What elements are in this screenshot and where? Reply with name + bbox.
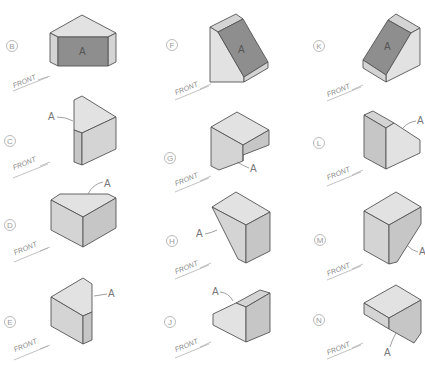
svg-text:K: K: [316, 42, 322, 51]
svg-text:FRONT: FRONT: [326, 340, 352, 356]
figure-H: H A FRONT: [167, 192, 271, 279]
leader-J: A: [212, 286, 233, 301]
surface-A-L: [386, 123, 420, 169]
svg-text:FRONT: FRONT: [326, 82, 352, 98]
front-indicator-H: FRONT: [174, 259, 211, 279]
front-indicator-F: FRONT: [174, 80, 211, 100]
figure-C: C A FRONT: [5, 96, 117, 178]
svg-text:J: J: [168, 318, 172, 327]
svg-text:H: H: [169, 237, 175, 246]
front-indicator-J: FRONT: [174, 337, 211, 358]
svg-text:A: A: [384, 347, 391, 358]
block-J: [213, 290, 270, 342]
figure-N: N A FRONT: [314, 285, 422, 359]
block-N: [364, 285, 421, 343]
svg-text:G: G: [167, 154, 173, 163]
figure-F: F A FRONT: [167, 14, 269, 100]
svg-text:C: C: [7, 137, 13, 146]
leader-G: A: [237, 162, 257, 174]
badge-J: J: [165, 317, 176, 328]
badge-G: G: [165, 153, 176, 164]
figure-J: J A FRONT: [165, 286, 271, 358]
svg-text:A: A: [48, 111, 55, 122]
block-M: [364, 192, 421, 264]
figure-L: L A FRONT: [314, 111, 425, 186]
svg-text:A: A: [104, 178, 111, 189]
svg-text:A: A: [108, 288, 115, 299]
svg-text:A: A: [196, 228, 203, 239]
badge-F: F: [167, 40, 178, 51]
leader-D: A: [88, 178, 111, 194]
leader-E: A: [94, 288, 115, 299]
svg-text:A: A: [384, 41, 391, 52]
badge-B: B: [7, 41, 18, 52]
svg-text:FRONT: FRONT: [174, 337, 200, 353]
leader-H: A: [196, 228, 217, 239]
block-D: [51, 194, 116, 247]
front-indicator-M: FRONT: [326, 261, 363, 280]
front-indicator-K: FRONT: [326, 82, 363, 101]
badge-C: C: [5, 136, 16, 147]
badge-H: H: [167, 236, 178, 247]
svg-text:A: A: [250, 163, 257, 174]
svg-text:N: N: [316, 316, 322, 325]
block-K: A: [363, 14, 420, 82]
svg-text:FRONT: FRONT: [174, 171, 200, 187]
figure-G: G A FRONT: [165, 112, 270, 192]
block-B: A: [50, 15, 116, 66]
figure-M: M A FRONT: [315, 192, 425, 280]
svg-text:M: M: [317, 236, 324, 245]
isometric-figure-sheet: B A FRONT C A FRONT: [0, 0, 425, 365]
svg-text:B: B: [9, 42, 14, 51]
svg-text:FRONT: FRONT: [326, 261, 352, 277]
svg-text:F: F: [170, 41, 175, 50]
svg-text:A: A: [419, 246, 425, 257]
block-L: [364, 111, 420, 169]
badge-N: N: [314, 315, 325, 326]
svg-text:FRONT: FRONT: [13, 337, 39, 353]
svg-text:FRONT: FRONT: [174, 259, 200, 275]
block-C: [74, 96, 116, 165]
svg-text:L: L: [317, 139, 322, 148]
block-G: [211, 112, 269, 170]
surface-A-E: [83, 312, 92, 344]
surface-A-J: [213, 303, 246, 342]
svg-text:A: A: [417, 115, 424, 126]
leader-N: A: [384, 333, 396, 358]
figure-K: K A FRONT: [314, 14, 421, 101]
front-indicator-D: FRONT: [13, 240, 50, 262]
badge-L: L: [314, 138, 325, 149]
front-indicator-G: FRONT: [174, 171, 211, 192]
block-F: A: [210, 14, 268, 82]
badge-K: K: [314, 41, 325, 52]
svg-text:E: E: [7, 318, 12, 327]
leader-C: A: [48, 111, 73, 122]
svg-text:A: A: [212, 286, 219, 297]
front-indicator-E: FRONT: [13, 337, 50, 360]
block-H: [212, 192, 270, 263]
block-E: [51, 278, 92, 344]
leader-M: A: [408, 246, 425, 257]
figure-D: D A FRONT: [5, 178, 117, 262]
front-indicator-N: FRONT: [326, 340, 363, 359]
svg-text:FRONT: FRONT: [12, 155, 38, 171]
leader-L: A: [403, 115, 424, 128]
svg-text:FRONT: FRONT: [326, 165, 352, 181]
figure-E: E A FRONT: [5, 278, 116, 360]
badge-M: M: [315, 235, 326, 246]
front-indicator-B: FRONT: [12, 73, 50, 91]
figure-B: B A FRONT: [7, 15, 117, 91]
badge-E: E: [5, 317, 16, 328]
svg-text:FRONT: FRONT: [174, 80, 200, 96]
svg-text:D: D: [7, 221, 13, 230]
badge-D: D: [5, 220, 16, 231]
svg-text:A: A: [79, 46, 86, 57]
front-indicator-C: FRONT: [12, 155, 50, 178]
front-indicator-L: FRONT: [326, 165, 363, 186]
svg-text:A: A: [238, 44, 245, 55]
